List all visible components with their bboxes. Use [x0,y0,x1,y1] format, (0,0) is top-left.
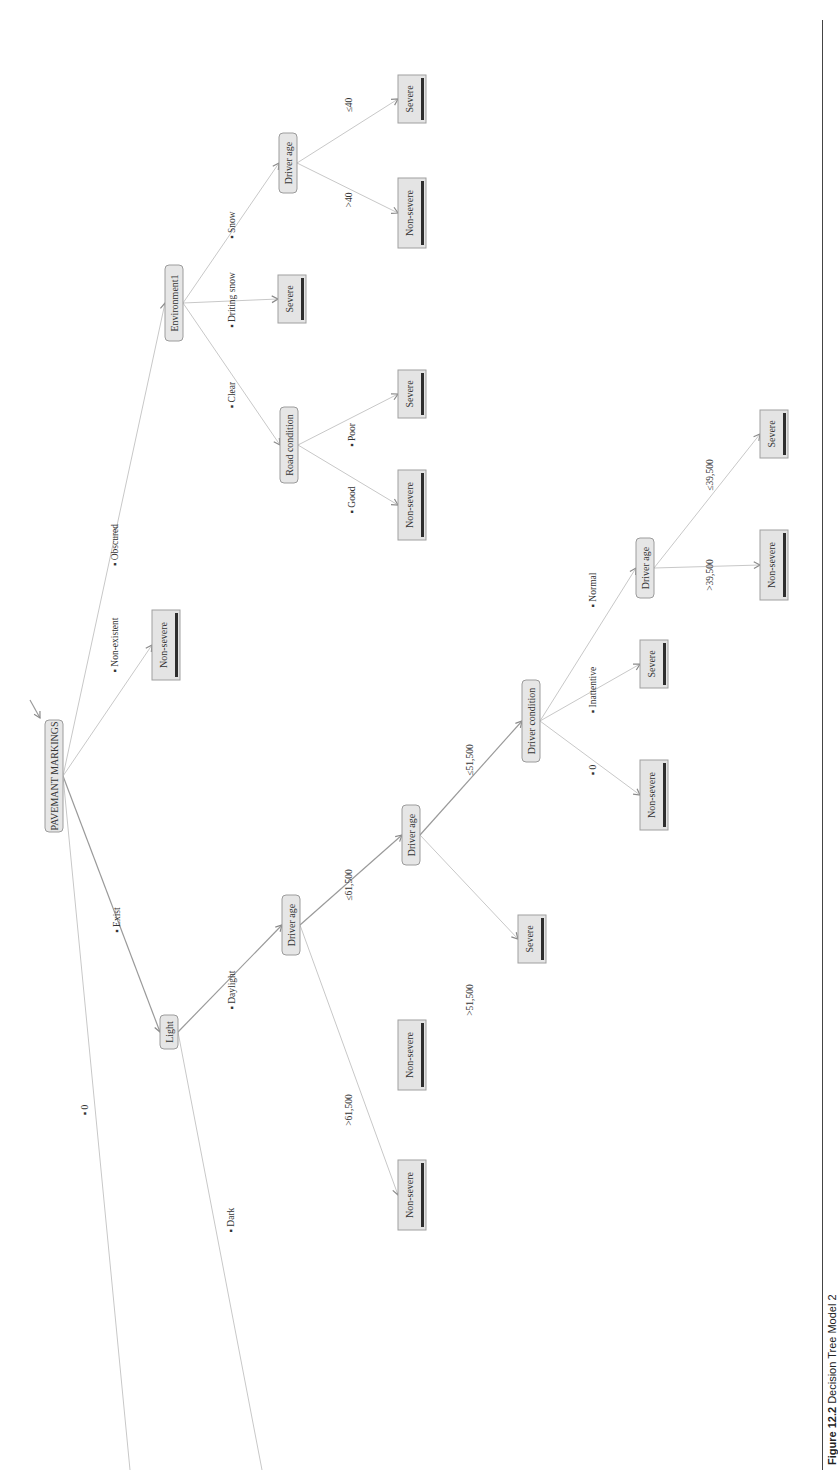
split-node[interactable]: PAVEMANT MARKINGS [45,720,63,832]
node-label: Driver age [286,903,297,946]
edge-label: ▪ Good [347,486,357,513]
leaf-node[interactable]: Non-severe [398,178,426,248]
edge-label: ▪ Obscured [110,524,120,566]
arrow-head-icon [391,99,398,105]
leaf-node[interactable]: Non-severe [760,530,788,600]
class-distribution-bar [421,181,424,245]
node-label: Non-severe [404,1031,415,1078]
tree-edge: ▪ 0 [540,721,640,795]
edge-label: ▪ Daylight [227,970,237,1009]
class-distribution-bar [663,643,666,685]
leaf-node[interactable]: Non-severe [398,1160,426,1230]
leaf-node[interactable]: Non-severe [152,610,180,680]
split-node[interactable]: Driver age [279,133,297,193]
tree-edge: >40 [297,163,398,213]
tree-edge: ▪ Exist [63,776,161,1032]
node-label: Light [164,1021,175,1043]
node-label: Severe [284,285,295,313]
tree-edge: ▪ Driting snow [183,272,278,328]
split-node[interactable]: Road condition [280,407,298,483]
edge-label: ▪ 0 [80,1105,90,1116]
leaf-node[interactable]: Severe [278,275,306,323]
edge-label: >39,500 [705,559,715,591]
node-label: Severe [404,380,415,408]
leaf-node[interactable]: Severe [640,640,668,688]
leaf-node[interactable]: Non-severe [398,470,426,540]
node-label: Non-severe [158,621,169,668]
class-distribution-bar [421,373,424,415]
class-distribution-bar [421,1023,424,1087]
leaf-node[interactable]: Severe [398,370,426,418]
edge-label: ≤61,500 [344,869,354,901]
edge-label: ≤39,500 [705,459,715,491]
node-label: Severe [524,925,535,953]
node-label: Driver age [406,813,417,856]
class-distribution-bar [301,278,304,320]
edge-label: ▪ Normal [588,572,598,607]
tree-edge: ▪ Obscured [63,303,167,776]
leaf-node[interactable]: Non-severe [398,1020,426,1090]
page-divider-line [822,20,823,1470]
figure-caption: Figure 12.2 Decision Tree Model 2 [826,1294,838,1465]
edge-label: ▪ 0 [588,765,598,776]
class-distribution-bar [541,918,544,960]
tree-edge: ▪ Daylight [178,925,282,1032]
class-distribution-bar [783,413,786,455]
caption-text: Decision Tree Model 2 [826,1294,838,1403]
node-label: Road condition [284,414,295,475]
edge-label: ▪ Poor [347,422,357,447]
tree-edge: ▪ Non-existent [63,617,152,776]
node-label: Non-severe [404,189,415,236]
edge-label: >40 [344,192,354,207]
leaf-node[interactable]: Severe [398,75,426,123]
tree-edge: >39,500 [654,559,760,591]
arrow-head-icon [630,568,636,575]
class-distribution-bar [663,763,666,827]
edge-label: >61,500 [344,1094,354,1126]
node-label: Non-severe [646,771,657,818]
caption-label: Figure 12.2 [826,1407,838,1465]
class-distribution-bar [421,1163,424,1227]
node-label: Severe [766,420,777,448]
node-label: Non-severe [766,541,777,588]
split-node[interactable]: Driver age [636,538,654,598]
edge-label: ▪ Driting snow [227,272,237,328]
node-label: Driver age [283,141,294,184]
edge-label: >51,500 [465,984,475,1016]
tree-edge: ▪ Dark [178,1032,262,1470]
edge-label: ≤51,500 [465,744,475,776]
tree-edge: ≤39,500 [654,434,760,568]
tree-edge: >51,500 [420,835,518,1016]
leaf-node[interactable]: Non-severe [640,760,668,830]
split-node[interactable]: Light [160,1015,178,1049]
tree-edge: >61,500 [300,925,399,1195]
tree-edge: ▪ Poor [298,394,398,447]
split-node[interactable]: Driver condition [522,680,540,762]
tree-edge: ≤40 [297,97,398,163]
tree-edge: ≤51,500 [420,721,522,835]
edge-label: ▪ Snow [227,211,237,239]
leaf-node[interactable]: Severe [518,915,546,963]
class-distribution-bar [421,78,424,120]
node-label: Severe [404,85,415,113]
split-node[interactable]: Environment1 [165,265,183,341]
split-node[interactable]: Driver age [282,895,300,955]
tree-edge: ≤61,500 [300,835,402,925]
class-distribution-bar [421,473,424,537]
node-label: PAVEMANT MARKINGS [49,721,60,830]
edge-label: ▪ Dark [226,1207,236,1232]
arrow-head-icon [274,438,280,445]
leaf-node[interactable]: Severe [760,410,788,458]
tree-edge: ▪ 0 [63,776,130,1470]
arrow-head-icon [146,645,152,652]
node-label: Environment1 [169,274,180,331]
node-label: Non-severe [404,1171,415,1218]
arrow-head-icon [273,163,279,170]
edge-label: ▪ Exist [112,907,122,933]
edge-label: ▪ Non-existent [110,617,120,672]
node-label: Severe [646,650,657,678]
tree-edge: ▪ Good [298,445,398,513]
node-label: Non-severe [404,481,415,528]
split-node[interactable]: Driver age [402,805,420,865]
node-label: Driver condition [526,688,537,754]
